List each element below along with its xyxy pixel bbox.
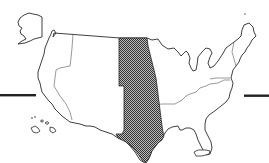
- alaska-inset: [18, 13, 42, 44]
- us-map-svg: [0, 0, 269, 163]
- gulf-island: [194, 150, 210, 156]
- small-island-dot: [244, 13, 245, 14]
- us-map-figure: United States map with highlighted centr…: [0, 0, 269, 163]
- left-horizontal-bar: [0, 94, 36, 96]
- hawaii-inset: [31, 116, 56, 133]
- right-horizontal-bar: [244, 95, 269, 97]
